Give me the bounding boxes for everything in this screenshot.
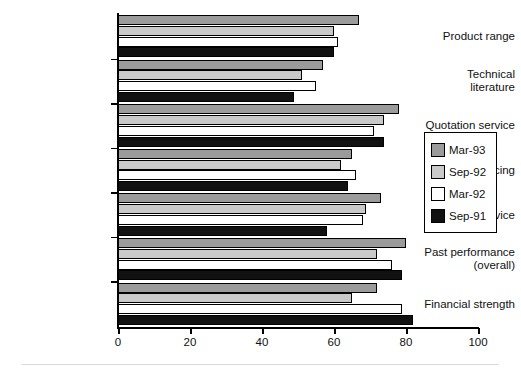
x-axis-tick [190, 328, 192, 334]
x-axis-tick [118, 328, 120, 334]
bar [118, 170, 356, 180]
legend-label-sep-92: Sep-92 [449, 166, 486, 178]
y-axis-tick [111, 148, 118, 150]
bar [118, 204, 366, 214]
bar [118, 104, 399, 114]
legend-label-sep-91: Sep-91 [449, 210, 486, 222]
legend-swatch-icon-sep-92 [431, 165, 445, 179]
bar [118, 260, 392, 270]
bar-chart: Product rangeTechnical literatureQuotati… [0, 0, 521, 377]
x-axis-tick [406, 328, 408, 334]
y-axis-tick [111, 59, 118, 61]
x-axis-tick [334, 328, 336, 334]
y-axis-tick [111, 192, 118, 194]
bar [118, 215, 363, 225]
legend: Mar-93 Sep-92 Mar-92 Sep-91 [424, 132, 497, 233]
x-axis-tick [262, 328, 264, 334]
legend-item-sep-92: Sep-92 [431, 161, 496, 183]
bar [118, 304, 402, 314]
legend-swatch-icon-mar-92 [431, 187, 445, 201]
bar [118, 238, 406, 248]
bar [118, 226, 327, 236]
bar [118, 293, 352, 303]
legend-label-mar-92: Mar-92 [449, 188, 485, 200]
bar [118, 160, 341, 170]
bar [118, 92, 294, 102]
bar [118, 149, 352, 159]
x-axis-tick-label: 60 [328, 336, 341, 348]
legend-label-mar-93: Mar-93 [449, 144, 485, 156]
bar [118, 81, 316, 91]
bar [118, 115, 384, 125]
legend-swatch-icon-mar-93 [431, 143, 445, 157]
legend-swatch-icon-sep-91 [431, 209, 445, 223]
x-axis-tick-label: 80 [400, 336, 413, 348]
legend-item-mar-92: Mar-92 [431, 183, 496, 205]
x-axis-tick-label: 0 [115, 336, 121, 348]
legend-item-sep-91: Sep-91 [431, 205, 496, 227]
bar [118, 315, 413, 325]
bar [118, 283, 377, 293]
bar [118, 37, 338, 47]
bar [118, 26, 334, 36]
footer-rule [22, 364, 499, 365]
x-axis-tick-label: 40 [256, 336, 269, 348]
bar [118, 181, 348, 191]
bar [118, 249, 377, 259]
y-axis-tick [111, 237, 118, 239]
y-axis-tick [111, 103, 118, 105]
bar [118, 60, 323, 70]
x-axis-line [117, 327, 479, 329]
bar [118, 193, 381, 203]
x-axis-tick [478, 328, 480, 334]
bar [118, 15, 359, 25]
x-axis-tick-label: 100 [468, 336, 487, 348]
bar [118, 47, 334, 57]
bar [118, 126, 374, 136]
bar [118, 137, 384, 147]
y-axis-tick [111, 281, 118, 283]
legend-item-mar-93: Mar-93 [431, 139, 496, 161]
bar [118, 270, 402, 280]
x-axis-tick-label: 20 [184, 336, 197, 348]
bar [118, 70, 302, 80]
